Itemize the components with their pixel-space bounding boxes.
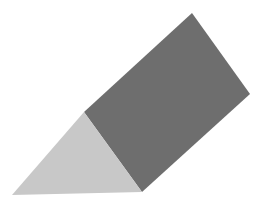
prism-diagram <box>0 0 264 212</box>
